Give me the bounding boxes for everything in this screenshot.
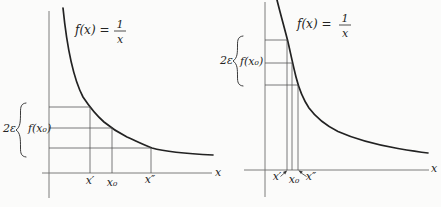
- right-tick-x-zero: x₀: [289, 173, 300, 186]
- left-x-axis-label: x: [215, 166, 222, 179]
- left-tick-x-double-prime: x″: [145, 173, 156, 186]
- left-epsilon-label: 2ε: [2, 122, 16, 135]
- right-fraction-numerator: 1: [342, 12, 349, 25]
- right-tick-x-prime: x′: [273, 170, 282, 183]
- left-fx0-label: f(x₀): [27, 122, 51, 135]
- left-tick-x-prime: x′: [86, 174, 95, 187]
- left-function-label: f(x) =: [74, 23, 109, 37]
- left-fraction-denominator: x: [117, 33, 124, 46]
- x-prime-pointer-arrow-icon: [281, 170, 288, 176]
- right-panel: 2ε f(x₀) f(x) = 1 x x x′ x₀ x″: [219, 0, 438, 197]
- right-epsilon-label: 2ε: [219, 54, 233, 67]
- figure-svg: 2ε f(x₀) f(x) = 1 x x x′ x₀ x″: [0, 0, 441, 207]
- right-x-axis-label: x: [431, 162, 438, 175]
- right-fraction-denominator: x: [342, 27, 349, 40]
- left-epsilon-brace: [16, 103, 26, 157]
- right-fx0-label: f(x₀): [239, 55, 263, 68]
- left-fraction-numerator: 1: [117, 18, 124, 31]
- hyperbola-epsilon-figure: 2ε f(x₀) f(x) = 1 x x x′ x₀ x″: [0, 0, 441, 207]
- left-tick-x-zero: x₀: [107, 176, 118, 189]
- right-function-label: f(x) =: [296, 17, 331, 31]
- right-tick-x-double-prime: x″: [306, 170, 317, 183]
- left-panel: 2ε f(x₀) f(x) = 1 x x x′ x₀ x″: [2, 8, 222, 198]
